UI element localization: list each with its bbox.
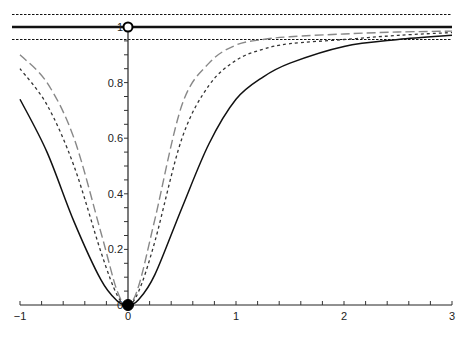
series-short-dashed xyxy=(20,33,452,306)
open-circle-marker xyxy=(124,23,133,32)
y-tick-label: 1 xyxy=(117,21,123,33)
data-series xyxy=(20,31,452,305)
x-tick-label: 1 xyxy=(233,310,239,322)
filled-circle-marker xyxy=(123,300,134,311)
y-tick-label: 0.8 xyxy=(108,77,123,89)
x-tick-label: 3 xyxy=(449,310,455,322)
x-tick-label: 2 xyxy=(341,310,347,322)
y-tick-label: 0.2 xyxy=(108,243,123,255)
y-tick-label: 0.4 xyxy=(108,188,123,200)
series-long-dashed xyxy=(20,31,452,305)
x-tick-label: −1 xyxy=(14,310,27,322)
series-solid xyxy=(20,35,452,305)
y-tick-label: 0.6 xyxy=(108,132,123,144)
line-chart: −1012300.20.40.60.81 xyxy=(0,0,465,338)
x-tick-label: 0 xyxy=(125,310,131,322)
axes: −1012300.20.40.60.81 xyxy=(14,21,455,322)
